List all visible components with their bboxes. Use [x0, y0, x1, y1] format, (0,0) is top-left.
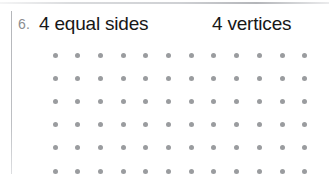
- grid-dot: [280, 53, 285, 58]
- grid-dot: [166, 76, 171, 81]
- grid-dot: [280, 76, 285, 81]
- grid-dot: [302, 145, 307, 150]
- grid-dot: [98, 53, 103, 58]
- grid-dot: [121, 169, 126, 174]
- grid-dot: [75, 99, 80, 104]
- grid-dot: [234, 53, 239, 58]
- grid-dot: [234, 169, 239, 174]
- question-number: 6.: [18, 15, 30, 33]
- grid-dot: [98, 122, 103, 127]
- grid-dot: [302, 76, 307, 81]
- grid-dot: [280, 169, 285, 174]
- grid-dot: [280, 99, 285, 104]
- grid-dot: [166, 122, 171, 127]
- grid-dot: [166, 53, 171, 58]
- grid-dot: [143, 76, 148, 81]
- grid-dot: [211, 76, 216, 81]
- grid-dot: [121, 122, 126, 127]
- grid-dot: [53, 53, 58, 58]
- grid-dot: [75, 122, 80, 127]
- grid-dot: [166, 99, 171, 104]
- grid-dot: [302, 99, 307, 104]
- grid-dot: [121, 99, 126, 104]
- grid-dot: [211, 122, 216, 127]
- grid-dot: [189, 53, 194, 58]
- grid-dot: [166, 169, 171, 174]
- dot-grid-work-area[interactable]: [0, 40, 329, 177]
- grid-dot: [53, 76, 58, 81]
- grid-dot: [257, 145, 262, 150]
- grid-dot: [75, 53, 80, 58]
- worksheet-page: 6. 4 equal sides 4 vertices: [0, 0, 329, 177]
- grid-dot: [257, 169, 262, 174]
- grid-dot: [98, 76, 103, 81]
- grid-dot: [257, 53, 262, 58]
- attribute-label-equal-sides: 4 equal sides: [39, 11, 148, 37]
- grid-dot: [98, 145, 103, 150]
- grid-dot: [211, 145, 216, 150]
- grid-dot: [143, 169, 148, 174]
- grid-dot: [53, 145, 58, 150]
- attribute-label-vertices: 4 vertices: [212, 11, 291, 37]
- grid-dot: [98, 169, 103, 174]
- grid-dot: [302, 122, 307, 127]
- page-top-edge-rule: [0, 2, 329, 4]
- grid-dot: [257, 122, 262, 127]
- question-header: 6. 4 equal sides 4 vertices: [0, 11, 329, 39]
- grid-dot: [280, 145, 285, 150]
- grid-dot: [143, 53, 148, 58]
- grid-dot: [189, 122, 194, 127]
- grid-dot: [234, 99, 239, 104]
- grid-dot: [211, 99, 216, 104]
- grid-dot: [166, 145, 171, 150]
- grid-dot: [143, 145, 148, 150]
- grid-dot: [189, 169, 194, 174]
- grid-dot: [189, 99, 194, 104]
- grid-dot: [53, 122, 58, 127]
- grid-dot: [75, 145, 80, 150]
- grid-dot: [257, 99, 262, 104]
- grid-dot: [121, 53, 126, 58]
- grid-dot: [121, 145, 126, 150]
- grid-dot: [75, 76, 80, 81]
- grid-dot: [234, 76, 239, 81]
- grid-dot: [98, 99, 103, 104]
- grid-dot: [234, 122, 239, 127]
- grid-dot: [211, 169, 216, 174]
- grid-dot: [234, 145, 239, 150]
- grid-dot: [143, 99, 148, 104]
- grid-dot: [189, 76, 194, 81]
- grid-dot: [302, 169, 307, 174]
- grid-dot: [53, 99, 58, 104]
- grid-dot: [143, 122, 148, 127]
- grid-dot: [53, 169, 58, 174]
- grid-dot: [75, 169, 80, 174]
- grid-dot: [280, 122, 285, 127]
- grid-dot: [189, 145, 194, 150]
- grid-dot: [257, 76, 262, 81]
- grid-dot: [121, 76, 126, 81]
- grid-dot: [302, 53, 307, 58]
- grid-dot: [211, 53, 216, 58]
